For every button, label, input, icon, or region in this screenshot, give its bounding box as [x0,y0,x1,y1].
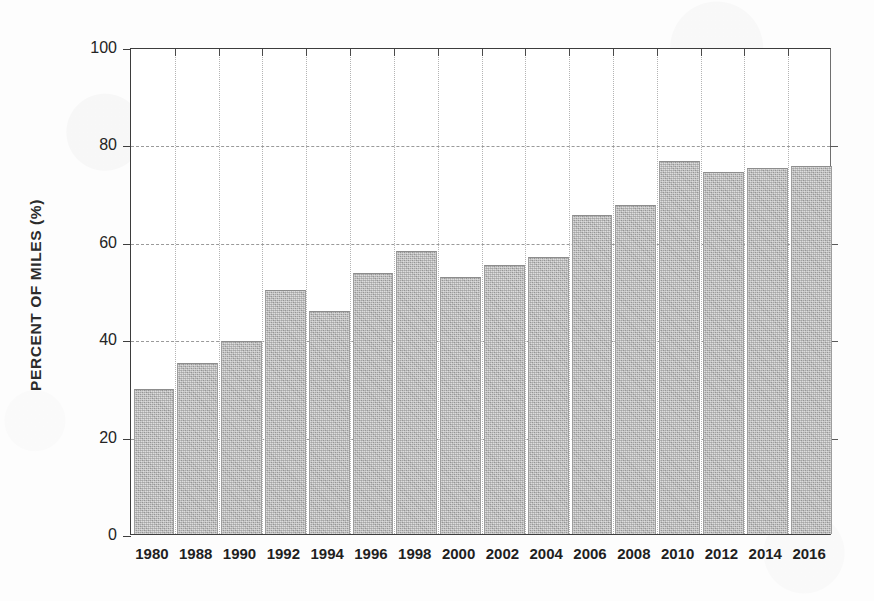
x-tick-label: 1992 [261,545,305,562]
y-tick-label: 0 [55,527,117,543]
x-tick-label: 2004 [524,545,568,562]
y-axis-tick-labels: 020406080100 [55,0,117,601]
x-tick-label: 1996 [349,545,393,562]
y-tick-label: 60 [55,235,117,251]
bar [177,363,218,534]
bar [703,172,744,534]
y-tick-label: 100 [55,40,117,56]
y-tick-label: 80 [55,137,117,153]
bar [615,205,656,534]
bar [396,251,437,534]
x-tick-label: 2002 [481,545,525,562]
x-tick-label: 2016 [787,545,831,562]
x-tick-label: 1980 [130,545,174,562]
x-tick-label: 1998 [393,545,437,562]
y-tick-label: 40 [55,332,117,348]
x-tick-label: 2000 [437,545,481,562]
y-tick-mark [123,146,131,147]
x-tick-label: 2012 [700,545,744,562]
bar-chart-figure: PERCENT OF MILES (%) 020406080100 198019… [0,0,874,601]
y-tick-mark [123,536,131,537]
x-tick-label: 2006 [568,545,612,562]
y-tick-label: 20 [55,430,117,446]
plot-area [130,48,831,535]
bars-group [131,49,830,534]
x-axis-tick-labels: 1980198819901992199419961998200020022004… [130,545,831,573]
x-tick-label: 1990 [218,545,262,562]
bar [659,161,700,534]
x-tick-label: 1994 [305,545,349,562]
bar [528,257,569,534]
y-tick-mark-right [830,146,838,147]
bar [791,166,832,534]
y-tick-mark [123,244,131,245]
x-tick-label: 2014 [743,545,787,562]
bar [309,311,350,534]
bar [440,277,481,534]
bar [572,215,613,534]
y-tick-mark [123,439,131,440]
bar [484,265,525,534]
bar [221,341,262,534]
bar [265,290,306,535]
y-tick-mark [123,49,131,50]
bar [134,389,175,534]
x-tick-label: 2010 [656,545,700,562]
x-tick-label: 1988 [174,545,218,562]
bar [353,273,394,534]
y-axis-title: PERCENT OF MILES (%) [27,165,45,425]
x-tick-label: 2008 [612,545,656,562]
bar [747,168,788,534]
y-tick-mark [123,341,131,342]
